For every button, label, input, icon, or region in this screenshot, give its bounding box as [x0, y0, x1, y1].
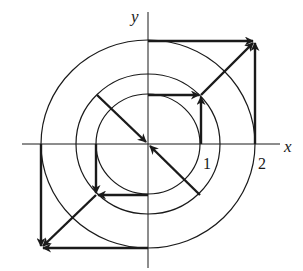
vector-field-diagram: y x 1 2	[0, 0, 303, 271]
x-axis-label: x	[283, 137, 292, 156]
arrow-diag-out-downleft	[43, 195, 96, 246]
tick-label-2: 2	[258, 155, 266, 172]
tick-label-1: 1	[203, 155, 211, 172]
arrow-diag-out-upright	[201, 43, 253, 95]
y-axis-label: y	[129, 7, 139, 26]
labels: y x 1 2	[129, 7, 292, 172]
arrow-diag-in-upperleft	[97, 95, 146, 142]
